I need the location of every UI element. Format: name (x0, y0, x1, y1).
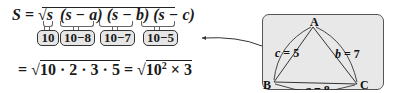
vertex-A: A (310, 15, 319, 29)
result-line: = √10 · 2 · 3 · 5 = √102 × 3 (18, 60, 192, 79)
simplified-expression: 102 × 3 (146, 60, 192, 78)
area-symbol: S (12, 6, 21, 23)
side-c-label: c = 5 (275, 46, 299, 60)
vertex-C: C (360, 78, 369, 90)
equals-sign: = (18, 61, 27, 78)
sqrt-vinculum (42, 7, 175, 8)
substitution-s-minus-c: 10−5 (143, 30, 178, 46)
side-b-label: b = 7 (335, 47, 360, 61)
sqrt-symbol: √ (31, 61, 40, 78)
product-expression: 10 · 2 · 3 · 5 (40, 60, 120, 78)
side-a-label: a = 8 (305, 83, 330, 90)
substitution-s-minus-b: 10−7 (100, 30, 135, 46)
equals-sign: = (124, 61, 133, 78)
substitution-s: 10 (37, 30, 59, 46)
sqrt-symbol: √ (137, 61, 146, 78)
equals-sign: = (25, 6, 34, 23)
vertex-B: B (263, 78, 271, 90)
pointer-arrow (198, 30, 268, 50)
triangle-diagram: A B C c = 5 b = 7 a = 8 (262, 14, 384, 90)
substitution-s-minus-a: 10−8 (60, 30, 95, 46)
